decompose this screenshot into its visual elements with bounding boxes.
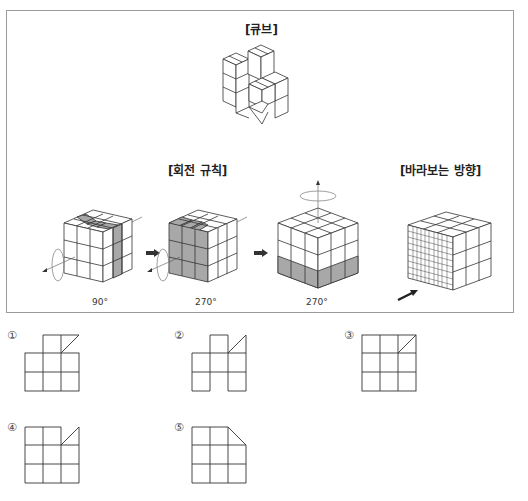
arrow-right-icon — [254, 249, 268, 257]
view-direction-cube — [396, 210, 506, 305]
option-2-figure[interactable] — [191, 333, 249, 393]
view-direction-title: [바라보는 방향] — [400, 161, 481, 178]
option-4-number: ④ — [7, 421, 17, 434]
option-1-number: ① — [7, 329, 17, 342]
cube-structure-figure — [218, 42, 298, 126]
cube-title: [큐브] — [245, 20, 278, 37]
option-5-number: ⑤ — [174, 421, 184, 434]
rotation-2-angle: 270° — [195, 297, 217, 307]
option-3-figure[interactable] — [361, 333, 419, 393]
rotation-cube-3 — [270, 178, 370, 296]
option-2-number: ② — [174, 329, 184, 342]
option-4-figure[interactable] — [24, 425, 82, 485]
rotation-cube-2 — [145, 205, 255, 295]
rotation-1-angle: 90° — [92, 297, 108, 307]
rotation-3-angle: 270° — [306, 297, 328, 307]
rotation-cube-1 — [40, 205, 150, 295]
option-3-number: ③ — [344, 329, 354, 342]
option-5-figure[interactable] — [191, 425, 249, 485]
option-1-figure[interactable] — [24, 333, 82, 393]
rotation-rules-title: [회전 규칙] — [168, 161, 227, 178]
